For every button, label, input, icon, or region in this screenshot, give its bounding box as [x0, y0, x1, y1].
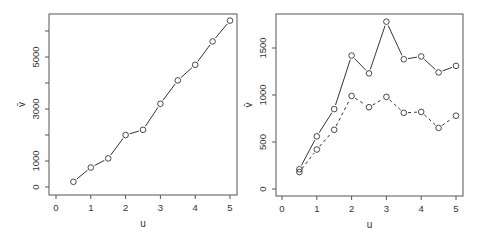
data-point-marker [436, 70, 442, 76]
data-point-marker [436, 125, 442, 131]
data-point-marker [453, 63, 459, 69]
data-point-marker [210, 39, 216, 45]
y-tick-label: 5000 [30, 46, 41, 67]
data-point-marker [349, 53, 355, 59]
data-point-marker [158, 101, 164, 107]
data-point-marker [384, 94, 390, 100]
x-axis-label: u [367, 219, 373, 230]
y-axis: 0100030005000v̄ [16, 31, 49, 190]
data-point-marker [418, 109, 424, 115]
x-tick-label: 4 [419, 203, 424, 214]
data-point-marker [71, 179, 77, 185]
data-point-marker [123, 132, 129, 138]
data-series-solid [71, 18, 233, 185]
data-point-marker [401, 56, 407, 62]
y-tick-label: 1500 [257, 37, 268, 58]
x-tick-label: 2 [349, 203, 354, 214]
data-point-marker [192, 62, 198, 68]
data-point-marker [314, 147, 320, 153]
data-point-marker [140, 127, 146, 133]
plot-frame [49, 14, 237, 195]
y-tick-label: 0 [30, 184, 41, 189]
y-tick-label: 1000 [30, 150, 41, 171]
x-tick-label: 5 [227, 202, 232, 213]
x-tick-label: 3 [384, 203, 389, 214]
plot-frame [276, 14, 463, 196]
left-plot-panel: 012345u0100030005000v̄ [16, 14, 237, 229]
right-plot-panel: 012345u050010001500v̄ [243, 14, 463, 230]
data-point-marker [366, 71, 372, 77]
data-series-solid [297, 19, 459, 172]
data-point-marker [349, 93, 355, 99]
x-tick-label: 5 [453, 203, 458, 214]
data-point-marker [88, 165, 94, 171]
y-tick-label: 0 [257, 186, 268, 191]
data-point-marker [331, 106, 337, 112]
data-point-marker [314, 134, 320, 140]
y-axis: 050010001500v̄ [243, 37, 276, 191]
x-tick-label: 3 [158, 202, 163, 213]
x-tick-label: 4 [193, 202, 198, 213]
data-point-marker [366, 104, 372, 110]
data-series-dashed [297, 93, 459, 175]
x-axis-label: u [140, 218, 146, 229]
figure: 012345u0100030005000v̄ 012345u0500100015… [0, 0, 482, 238]
data-point-marker [401, 110, 407, 116]
data-point-marker [418, 54, 424, 60]
x-tick-label: 1 [314, 203, 319, 214]
data-point-marker [453, 113, 459, 119]
y-axis-label: v̄ [16, 102, 27, 107]
x-axis: 012345u [279, 196, 458, 230]
x-axis: 012345u [53, 195, 232, 229]
y-tick-label: 500 [257, 134, 268, 150]
data-point-marker [227, 18, 233, 24]
data-point-marker [384, 19, 390, 25]
data-point-marker [175, 78, 181, 84]
data-point-marker [105, 156, 111, 162]
y-tick-label: 1000 [257, 84, 268, 105]
x-tick-label: 2 [123, 202, 128, 213]
x-tick-label: 0 [279, 203, 284, 214]
y-tick-label: 3000 [30, 98, 41, 119]
x-tick-label: 0 [53, 202, 58, 213]
x-tick-label: 1 [88, 202, 93, 213]
data-point-marker [331, 127, 337, 133]
y-axis-label: v̄ [243, 103, 254, 108]
